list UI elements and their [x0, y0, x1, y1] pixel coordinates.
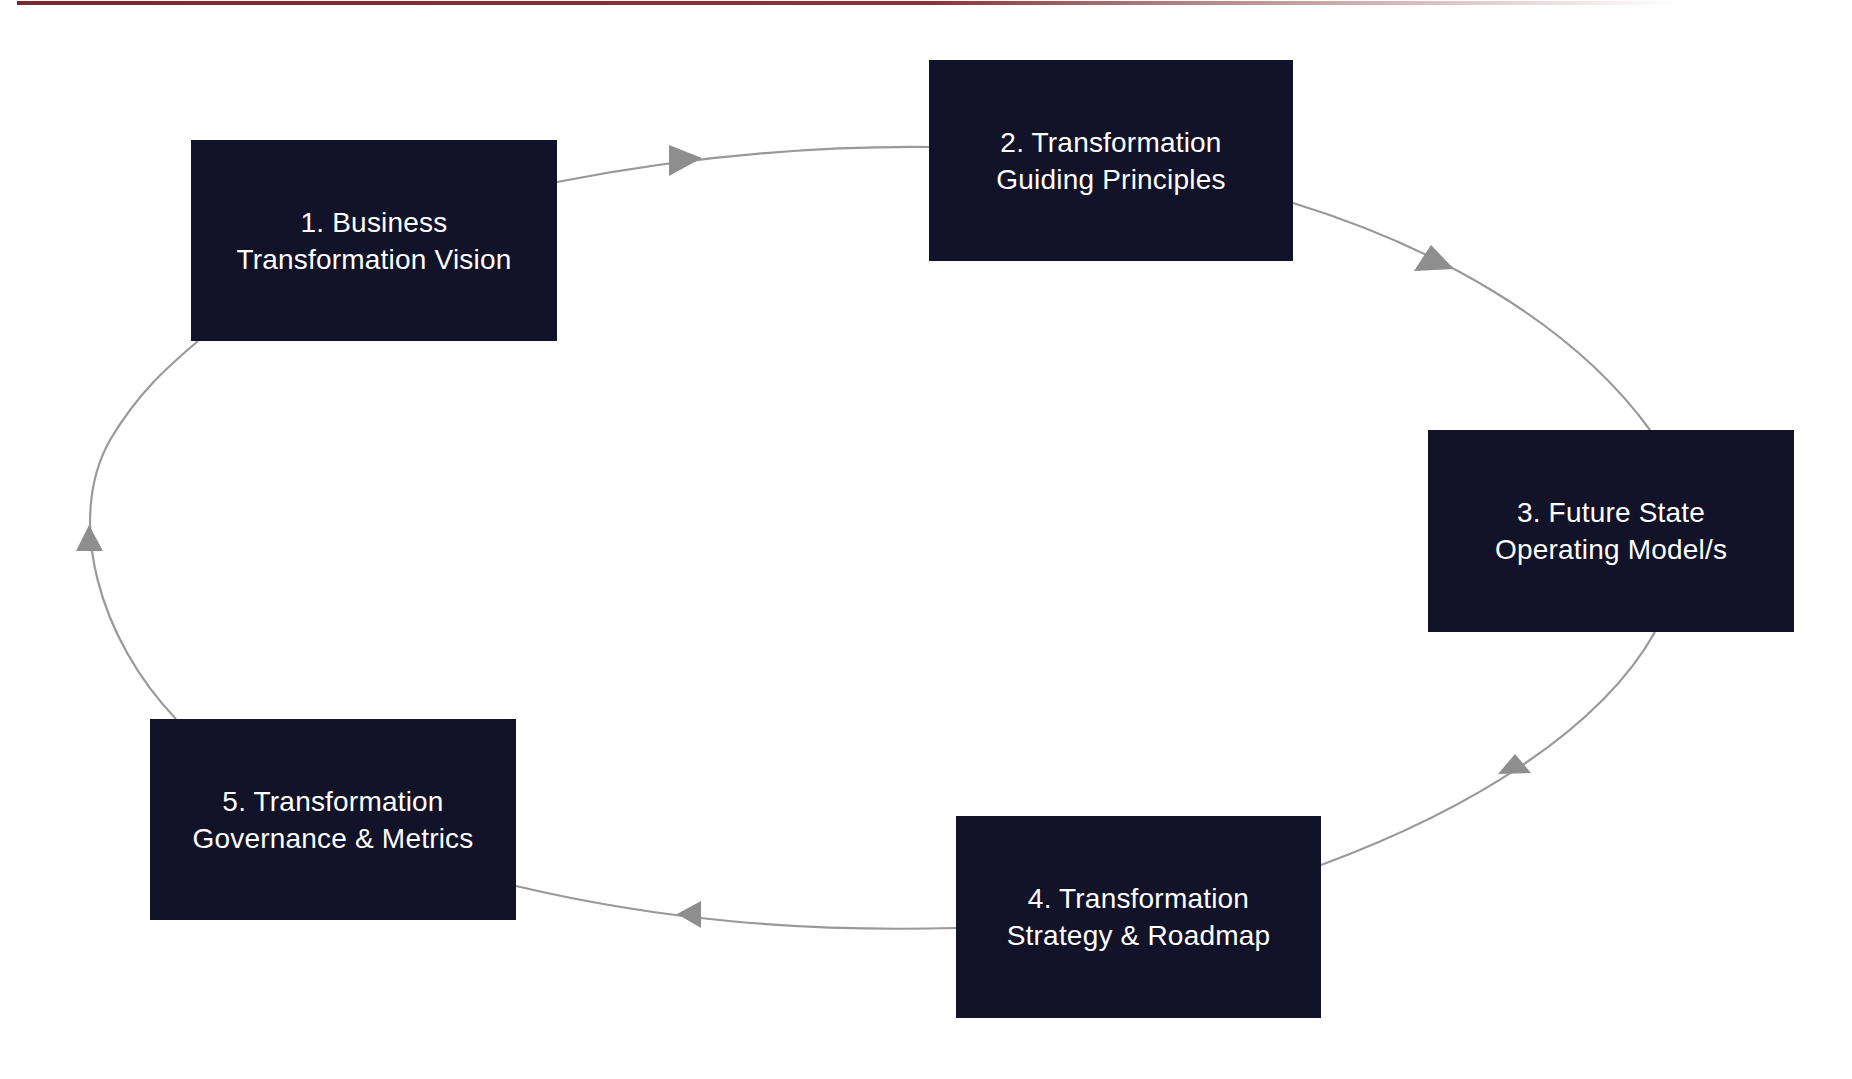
step-1-business-transformation-vision: 1. Business Transformation Vision	[191, 140, 557, 341]
step-2-transformation-guiding-principles: 2. Transformation Guiding Principles	[929, 60, 1293, 261]
step-4-title-line2: Strategy & Roadmap	[1007, 917, 1271, 954]
step-2-title-line2: Guiding Principles	[996, 161, 1225, 198]
step-3-title-line1: 3. Future State	[1517, 494, 1705, 531]
connector-4-to-5	[516, 886, 956, 929]
arrowhead-2-to-3-icon	[1414, 245, 1454, 271]
step-3-future-state-operating-models: 3. Future State Operating Model/s	[1428, 430, 1794, 632]
arrowhead-4-to-5-icon	[677, 901, 701, 928]
connector-1-to-2	[557, 147, 929, 182]
step-5-title-line2: Governance & Metrics	[193, 820, 474, 857]
step-1-title-line1: 1. Business	[301, 204, 448, 241]
connector-5-to-1	[90, 341, 198, 719]
step-4-transformation-strategy-roadmap: 4. Transformation Strategy & Roadmap	[956, 816, 1321, 1018]
connector-3-to-4	[1321, 632, 1655, 865]
step-5-title-line1: 5. Transformation	[222, 783, 443, 820]
step-3-title-line2: Operating Model/s	[1495, 531, 1727, 568]
connector-2-to-3	[1293, 203, 1650, 430]
step-2-title-line1: 2. Transformation	[1000, 124, 1221, 161]
step-4-title-line1: 4. Transformation	[1028, 880, 1249, 917]
arrowhead-5-to-1-icon	[76, 525, 103, 551]
step-1-title-line2: Transformation Vision	[237, 241, 512, 278]
step-5-transformation-governance-metrics: 5. Transformation Governance & Metrics	[150, 719, 516, 920]
arrowhead-1-to-2-icon	[669, 145, 702, 176]
